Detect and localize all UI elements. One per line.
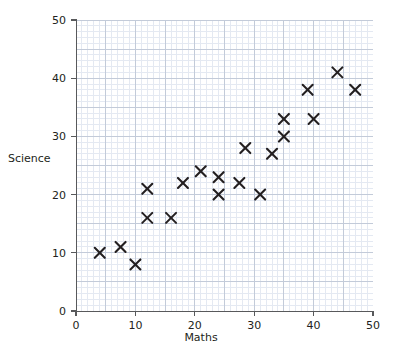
x-tick-label: 40 — [307, 319, 321, 332]
x-tick-label: 10 — [128, 319, 142, 332]
y-tick-label: 20 — [34, 188, 66, 201]
y-tick-label: 50 — [34, 14, 66, 27]
y-tick-label: 40 — [34, 72, 66, 85]
y-tick-label: 10 — [34, 246, 66, 259]
scatter-plot: Science Maths 01020304050 01020304050 — [0, 0, 394, 352]
axis-tick-marks — [71, 20, 373, 316]
x-tick-label: 20 — [188, 319, 202, 332]
y-tick-label: 30 — [34, 130, 66, 143]
y-tick-label: 0 — [34, 305, 66, 318]
grid-major-lines — [76, 20, 373, 311]
x-axis-title: Maths — [184, 331, 217, 344]
data-point-markers — [95, 67, 360, 269]
x-tick-label: 0 — [73, 319, 80, 332]
x-tick-label: 50 — [366, 319, 380, 332]
x-tick-label: 30 — [247, 319, 261, 332]
y-axis-title: Science — [8, 152, 51, 165]
plot-canvas — [0, 0, 394, 352]
